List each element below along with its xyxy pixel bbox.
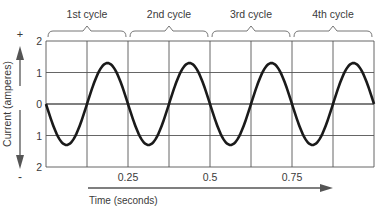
y-tick-label: 1 [36,67,42,79]
x-axis-arrow [88,184,333,192]
cycle-brace [130,26,208,37]
arrow-up-icon [16,46,24,60]
arrow-right-icon [320,184,333,192]
y-axis-arrow [16,46,24,169]
cycle-label: 4th cycle [312,8,354,20]
cycle-braces: 1st cycle2nd cycle3rd cycle4th cycle [48,8,372,37]
x-tick-label: 0.75 [282,171,303,183]
cycle-label: 2nd cycle [147,8,192,20]
x-axis-label: Time (seconds) [89,195,158,206]
x-tick-labels: 0.250.50.75 [118,171,303,183]
cycle-brace [212,26,290,37]
ac-current-chart: 1st cycle2nd cycle3rd cycle4th cycle 210… [0,0,376,209]
y-positive-sign: + [17,28,23,40]
cycle-label: 3rd cycle [230,8,272,20]
cycle-brace [48,26,126,37]
y-tick-label: 1 [36,130,42,142]
x-tick-label: 0.25 [118,171,139,183]
x-tick-label: 0.5 [203,171,218,183]
y-tick-label: 2 [36,35,42,47]
cycle-label: 1st cycle [67,8,108,20]
y-axis-label: Current (amperes) [1,61,13,147]
y-tick-labels: 21012 [36,35,42,173]
y-negative-sign: - [18,170,22,184]
y-tick-label: 0 [36,98,42,110]
arrow-down-icon [16,155,24,169]
y-tick-label: 2 [36,161,42,173]
cycle-brace [294,26,372,37]
